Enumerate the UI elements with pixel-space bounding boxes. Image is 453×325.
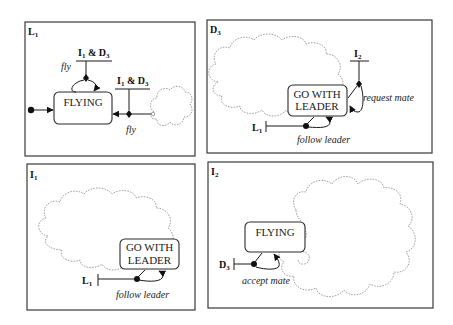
state-label-line2: LEADER — [295, 100, 339, 112]
panel-l1-frame — [25, 22, 195, 156]
panel-i1: I1 GO WITH LEADER L1 follow leader — [27, 164, 195, 310]
event-label: request mate — [363, 92, 415, 103]
event-label: fly — [126, 124, 137, 135]
event-label: fly — [61, 61, 72, 72]
junction-dot — [303, 123, 309, 129]
event-label: accept mate — [242, 275, 291, 286]
state-flying-label: FLYING — [255, 226, 294, 238]
panel-i2: I2 FLYING D3 accept mate — [208, 162, 433, 308]
junction-dot — [251, 261, 257, 267]
event-label: follow leader — [116, 289, 169, 300]
junction-dot — [134, 276, 140, 282]
state-label-line1: GO WITH — [293, 88, 340, 100]
state-flying-label: FLYING — [63, 96, 102, 108]
state-label-line2: LEADER — [128, 254, 172, 266]
event-label: follow leader — [297, 134, 350, 145]
panel-d3: D3 GO WITH LEADER I2 request mate L1 fol… — [207, 20, 432, 153]
statechart-diagram: L1 FLYING I1 & D3 fly I1 & D3 fly D3 GO — [0, 0, 453, 325]
state-label-line1: GO WITH — [126, 241, 173, 253]
panel-l1: L1 FLYING I1 & D3 fly I1 & D3 fly — [25, 22, 195, 156]
initial-state-dot — [28, 107, 34, 113]
cloud-connector — [151, 112, 155, 116]
